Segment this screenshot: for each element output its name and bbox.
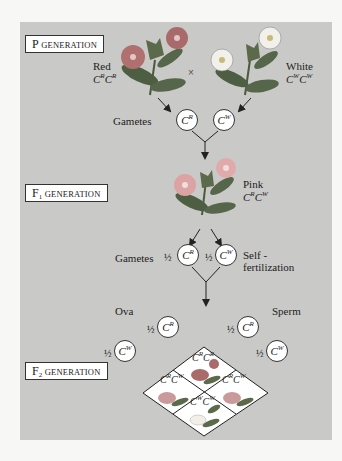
gamete-cw: CW xyxy=(213,109,235,131)
gamete-allele: W xyxy=(278,344,284,352)
red-flower-plant-icon xyxy=(119,27,188,95)
white-flower-plant-icon xyxy=(211,27,281,95)
f1-gamete-cr: CR xyxy=(177,244,199,266)
allele-1: W xyxy=(197,394,203,402)
gamete-cr: CR xyxy=(176,109,198,131)
p-generation-label: P GENERATION xyxy=(25,35,104,53)
allele-1: R xyxy=(229,372,233,380)
pink-flower-plant-icon xyxy=(173,158,236,216)
ova-cw: CW xyxy=(114,340,136,362)
f2-label-letter: F xyxy=(32,364,39,378)
allele-1: R xyxy=(199,350,203,358)
ova-label: Ova xyxy=(115,305,133,317)
gamete-base: C xyxy=(181,114,188,126)
gamete-base: C xyxy=(182,249,189,261)
fraction-label: ½ xyxy=(147,324,155,336)
sperm-cw: CW xyxy=(266,340,288,362)
f2-label-sub: 2 xyxy=(39,371,43,379)
sperm-label: Sperm xyxy=(272,305,301,317)
allele-2: R xyxy=(210,350,214,358)
allele-2: W xyxy=(178,372,184,380)
f1-label-sub: 1 xyxy=(39,193,43,201)
fraction-label: ½ xyxy=(164,252,172,264)
p-gametes-label: Gametes xyxy=(113,115,151,127)
self-fertilization-label-line2: fertilization xyxy=(243,261,294,273)
self-fertilization-label-line1: Self - xyxy=(243,249,267,261)
f1-label-letter: F xyxy=(32,186,39,200)
gamete-allele: R xyxy=(170,320,174,328)
p-label-text: GENERATION xyxy=(41,40,97,50)
geno-allele: R xyxy=(112,72,116,80)
sperm-cr: CR xyxy=(237,316,259,338)
f2-label-text: GENERATION xyxy=(45,367,101,377)
f2-generation-label: F2 GENERATION xyxy=(25,362,108,380)
gamete-allele: W xyxy=(227,248,233,256)
allele-1: R xyxy=(167,372,171,380)
pink-genotype-label: CRCW xyxy=(243,191,268,203)
geno-base: C xyxy=(105,73,112,85)
ova-cr: CR xyxy=(157,316,179,338)
gamete-base: C xyxy=(162,321,169,333)
f1-label-text: GENERATION xyxy=(45,189,101,199)
geno-allele: W xyxy=(307,72,313,80)
gamete-base: C xyxy=(219,249,226,261)
gamete-allele: R xyxy=(189,113,193,121)
red-genotype-label: CRCR xyxy=(93,73,116,85)
grid-cell-cwcw: CWCW xyxy=(190,396,215,407)
gamete-allele: R xyxy=(250,320,254,328)
gamete-base: C xyxy=(270,345,277,357)
gamete-allele: R xyxy=(190,248,194,256)
fraction-label: ½ xyxy=(227,324,235,336)
gamete-base: C xyxy=(242,321,249,333)
white-genotype-label: CWCW xyxy=(286,73,312,85)
gamete-allele: W xyxy=(225,113,231,121)
geno-base: C xyxy=(299,73,306,85)
red-phenotype-label: Red xyxy=(93,60,111,72)
fraction-label: ½ xyxy=(205,252,213,264)
p-label-letter: P xyxy=(32,37,39,51)
grid-cell-crcw-right: CRCW xyxy=(222,374,245,385)
f1-generation-label: F1 GENERATION xyxy=(25,184,108,202)
grid-cell-crcr: CRCR xyxy=(192,352,214,363)
fraction-label: ½ xyxy=(256,348,264,360)
cross-symbol: × xyxy=(188,67,194,78)
f1-gametes-label: Gametes xyxy=(115,252,153,264)
fraction-label: ½ xyxy=(104,348,112,360)
allele-2: W xyxy=(209,394,215,402)
allele-2: W xyxy=(240,372,246,380)
pink-phenotype-label: Pink xyxy=(243,178,263,190)
grid-cell-crcw-left: CRCW xyxy=(160,374,183,385)
gamete-base: C xyxy=(217,114,224,126)
f1-gamete-cw: CW xyxy=(215,244,237,266)
gamete-allele: W xyxy=(126,344,132,352)
gamete-base: C xyxy=(118,345,125,357)
white-phenotype-label: White xyxy=(286,60,313,72)
